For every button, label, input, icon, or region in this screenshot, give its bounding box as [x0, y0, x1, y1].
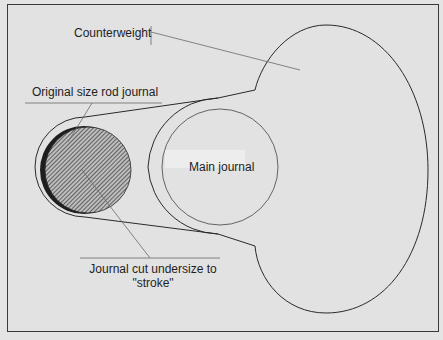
undersize-journal-label-line1: Journal cut undersize to — [88, 262, 218, 276]
counterweight-leader — [151, 32, 300, 70]
undersize-journal-label-line2: "stroke" — [88, 276, 218, 290]
undersize-rod-journal — [45, 127, 131, 213]
main-journal-label: Main journal — [189, 160, 254, 174]
counterweight-label: Counterweight — [74, 26, 151, 40]
original-rod-journal-label: Original size rod journal — [32, 85, 158, 99]
